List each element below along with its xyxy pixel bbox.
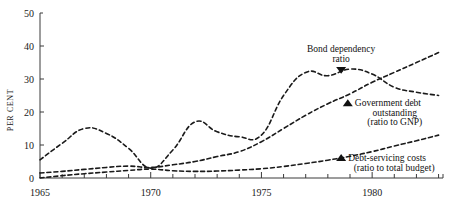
debt-servicing-label-line2: (ratio to total budget) (354, 163, 435, 174)
bond-dependency-label-line1: Bond dependency (307, 44, 376, 54)
y-tick-label: 50 (24, 8, 34, 19)
annotation-layer: Bond dependencyratioGovernment debtoutst… (307, 44, 435, 173)
x-tick-label: 1975 (251, 187, 271, 198)
y-axis-tick-labels: 01020304050 (24, 8, 34, 184)
y-tick-label: 20 (24, 107, 34, 118)
x-tick-label: 1970 (141, 187, 161, 198)
debt-servicing-marker-icon (336, 154, 346, 161)
chart-container: PER CENT 01020304050 1965197019751980 Bo… (0, 0, 458, 208)
x-axis-tick-labels: 1965197019751980 (30, 187, 382, 198)
y-tick-label: 10 (24, 140, 34, 151)
government-debt-label-line2: outstanding (373, 108, 418, 118)
government-debt-label-line3: (ratio to GNP) (367, 117, 422, 128)
y-tick-label: 40 (24, 41, 34, 52)
government-debt-marker-icon (343, 99, 353, 106)
x-axis-line (40, 174, 443, 178)
government-debt-label-line1: Government debt (355, 98, 422, 108)
y-axis-title: PER CENT (6, 89, 15, 131)
y-tick-label: 30 (24, 74, 34, 85)
y-axis-ticks (40, 46, 44, 145)
y-tick-label: 0 (29, 173, 34, 184)
percent-line-chart: PER CENT 01020304050 1965197019751980 Bo… (0, 0, 458, 208)
x-tick-label: 1965 (30, 187, 50, 198)
x-tick-label: 1980 (362, 187, 382, 198)
debt-servicing-label-line1: Debt-servicing costs (348, 153, 426, 163)
y-axis-line (40, 13, 43, 178)
bond-dependency-label-line2: ratio (332, 54, 350, 64)
